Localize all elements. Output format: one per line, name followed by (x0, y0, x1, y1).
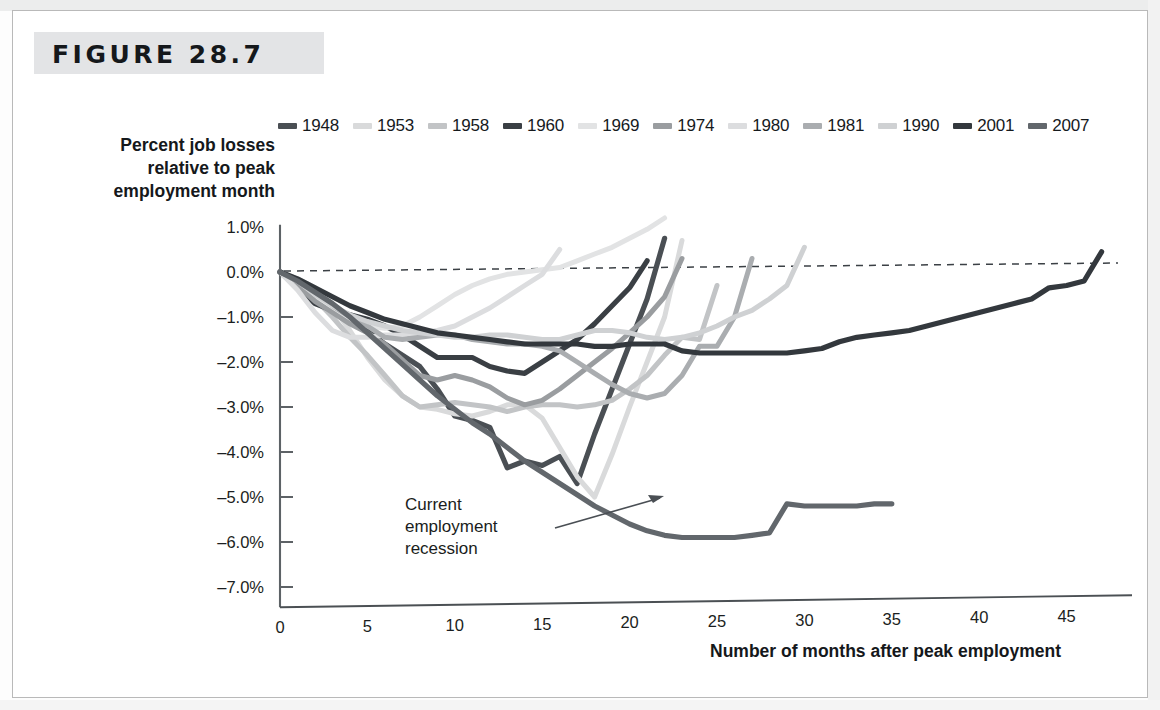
x-tick-label-25: 25 (708, 612, 726, 630)
x-tick-label-5: 5 (363, 617, 372, 635)
y-tick-label-0.0%: 0.0% (226, 263, 264, 281)
x-tick-label-10: 10 (446, 616, 464, 634)
y-tick-label-–5.0%: –5.0% (217, 488, 264, 506)
y-tick-label-–7.0%: –7.0% (217, 578, 264, 596)
y-tick-label-1.0%: 1.0% (226, 218, 264, 236)
series-line-1948[interactable] (280, 238, 665, 483)
y-tick-label-–6.0%: –6.0% (217, 533, 264, 551)
y-tick-label-–4.0%: –4.0% (217, 443, 264, 461)
x-tick-label-0: 0 (275, 618, 284, 636)
chart-plot: 1.0%0.0%–1.0%–2.0%–3.0%–4.0%–5.0%–6.0%–7… (0, 0, 1160, 710)
x-tick-label-15: 15 (533, 615, 551, 633)
y-tick-label-–3.0%: –3.0% (217, 398, 264, 416)
zero-line (284, 263, 1118, 271)
x-tick-label-40: 40 (970, 608, 988, 626)
x-tick-label-45: 45 (1057, 607, 1075, 625)
x-tick-label-20: 20 (620, 613, 638, 631)
x-axis-line (280, 595, 1132, 607)
x-tick-label-35: 35 (883, 610, 901, 628)
figure-page: FIGURE 28.7 1948195319581960196919741980… (0, 0, 1160, 710)
y-tick-label-–1.0%: –1.0% (217, 308, 264, 326)
x-tick-label-30: 30 (795, 611, 813, 629)
series-layer (280, 218, 1102, 538)
zero-reference-line (284, 263, 1118, 271)
y-tick-label-–2.0%: –2.0% (217, 353, 264, 371)
